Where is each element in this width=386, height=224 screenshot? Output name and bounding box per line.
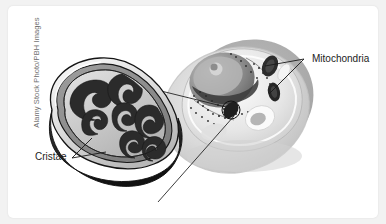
label-cristae: Cristae <box>35 151 67 162</box>
magnified-mitochondrion <box>49 58 182 187</box>
label-mitochondria: Mitochondria <box>312 53 369 64</box>
watermark-text: Alamy Stock Photo/PBH Images <box>32 6 41 143</box>
animal-cell-illustration <box>148 23 329 190</box>
diagram-artwork <box>8 6 378 218</box>
figure-stage: Alamy Stock Photo/PBH Images Mitochondri… <box>0 0 386 224</box>
figure-card: Alamy Stock Photo/PBH Images Mitochondri… <box>8 6 378 218</box>
